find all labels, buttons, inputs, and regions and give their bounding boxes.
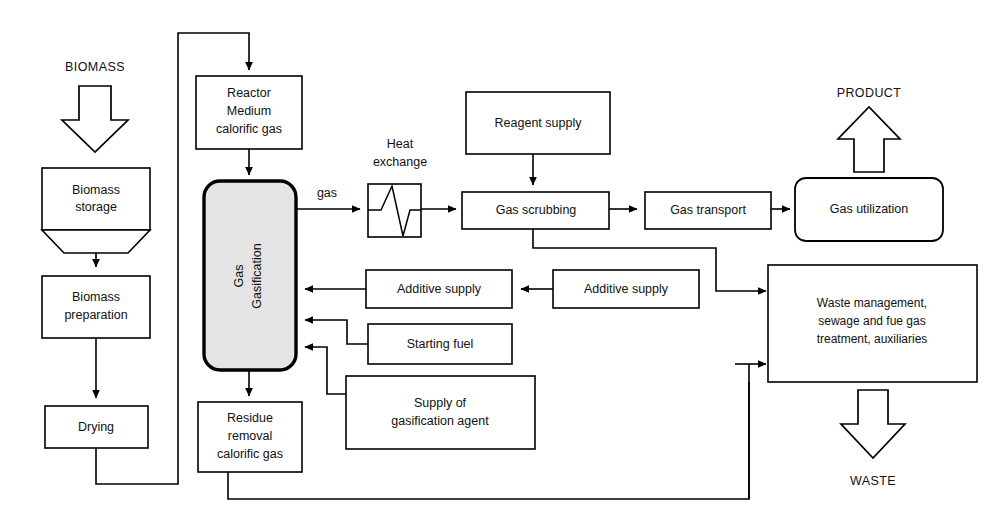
- biomass-input-label: BIOMASS: [65, 60, 125, 74]
- biomass-storage-label-line2: storage: [75, 200, 117, 214]
- biomass-preparation-label-line1: Biomass: [72, 290, 120, 304]
- gas-gasification-label-line2: Gasification: [250, 243, 264, 308]
- waste-output-label: WASTE: [850, 474, 896, 488]
- gas-utilization-label: Gas utilization: [830, 202, 909, 216]
- additive-supply-right-label: Additive supply: [584, 282, 669, 296]
- biomass-preparation-label-line2: preparation: [64, 308, 127, 322]
- gas-gasification-label-line1: Gas: [232, 265, 246, 288]
- biomass-storage-label-line1: Biomass: [72, 183, 120, 197]
- process-flow-diagram: BIOMASS Biomass storage Biomass preparat…: [0, 0, 989, 528]
- waste-management-label-line3: treatment, auxiliaries: [817, 332, 928, 346]
- gasification-agent-label-line2: gasification agent: [391, 414, 489, 428]
- heat-exchange-label-line2: exchange: [373, 155, 427, 169]
- waste-output-block-arrow: [841, 390, 905, 458]
- waste-management-label-line1: Waste management,: [817, 296, 927, 310]
- reactor-label-line3: calorific gas: [216, 122, 282, 136]
- flow-diagram-canvas: BIOMASS Biomass storage Biomass preparat…: [0, 0, 989, 528]
- residue-removal-label-line2: removal: [228, 429, 272, 443]
- biomass-input-block-arrow: [62, 86, 128, 152]
- residue-removal-label-line3: calorific gas: [217, 447, 283, 461]
- reagent-supply-label: Reagent supply: [495, 116, 583, 130]
- gasification-agent-supply-box[interactable]: [346, 376, 535, 449]
- gas-scrubbing-label: Gas scrubbing: [496, 203, 577, 217]
- waste-management-label-line2: sewage and fue gas: [818, 314, 925, 328]
- product-output-block-arrow: [838, 107, 900, 172]
- gas-edge-label: gas: [317, 186, 337, 200]
- gas-transport-label: Gas transport: [670, 203, 746, 217]
- additive-supply-left-label: Additive supply: [397, 282, 482, 296]
- biomass-storage-box[interactable]: [42, 168, 150, 230]
- biomass-preparation-box[interactable]: [42, 276, 150, 338]
- residue-removal-label-line1: Residue: [227, 411, 273, 425]
- heat-exchange-label-line1: Heat: [387, 137, 414, 151]
- drying-label: Drying: [78, 420, 114, 434]
- biomass-storage-hopper: [42, 230, 150, 253]
- starting-fuel-label: Starting fuel: [407, 337, 474, 351]
- edge-gasification-agent-to-gasifier: [305, 347, 346, 394]
- reactor-label-line2: Medium: [227, 104, 271, 118]
- edge-starting-fuel-to-gasifier: [305, 320, 368, 344]
- gasification-agent-label-line1: Supply of: [414, 396, 467, 410]
- product-output-label: PRODUCT: [837, 86, 902, 100]
- reactor-label-line1: Reactor: [227, 86, 271, 100]
